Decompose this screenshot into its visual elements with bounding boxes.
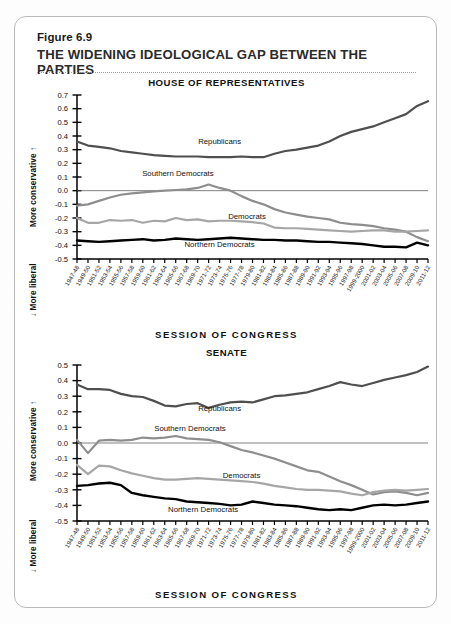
y-tick-label: -0.4 (55, 241, 68, 250)
y-tick-label: 0.7 (57, 91, 68, 100)
y-tick-label: 0.4 (57, 132, 68, 141)
y-tick-label: 0.2 (57, 159, 68, 168)
y-tick-label: -0.1 (55, 200, 68, 209)
series-label-northern-democrats: Northern Democrats (168, 505, 238, 514)
chart-title-house: HOUSE OF REPRESENTATIVES (15, 77, 438, 88)
y-tick-label: -0.2 (55, 470, 68, 479)
series-label-republicans: Republicans (198, 137, 241, 146)
line-chart-senate: 0.50.40.30.20.10.0-0.1-0.2-0.3-0.4-0.519… (15, 359, 438, 581)
y-tick-label: 0.0 (57, 186, 68, 195)
y-tick-label: -0.4 (55, 501, 68, 510)
x-axis-title-house: SESSION OF CONGRESS (15, 329, 438, 340)
y-tick-label: 0.6 (57, 104, 68, 113)
y-tick-label: -0.3 (55, 486, 68, 495)
y-tick-label: 0.5 (57, 361, 68, 370)
series-label-southern-democrats: Southern Democrats (142, 169, 214, 178)
x-axis-title-senate: SESSION OF CONGRESS (15, 589, 438, 600)
series-line-northern-democrats (77, 483, 428, 510)
y-tick-label: 0.3 (57, 392, 68, 401)
y-tick-label: -0.3 (55, 227, 68, 236)
series-label-northern-democrats: Northern Democrats (184, 240, 254, 249)
figure-card: Figure 6.9 THE WIDENING IDEOLOGICAL GAP … (14, 16, 437, 608)
series-label-democrats: Democrats (223, 471, 261, 480)
series-line-republicans (77, 367, 428, 408)
chart-panel-house: HOUSE OF REPRESENTATIVES More conservati… (15, 77, 438, 345)
y-tick-label: 0.4 (57, 376, 68, 385)
line-chart-house: 0.70.60.50.40.30.20.10.0-0.1-0.2-0.3-0.4… (15, 89, 438, 319)
y-tick-label: -0.1 (55, 454, 68, 463)
y-tick-label: -0.5 (55, 255, 68, 264)
series-label-republicans: Republicans (198, 404, 241, 413)
figure-number-label: Figure 6.9 (37, 31, 92, 43)
chart-title-senate: SENATE (15, 347, 438, 358)
y-tick-label: 0.3 (57, 145, 68, 154)
y-tick-label: 0.5 (57, 118, 68, 127)
y-tick-label: 0.1 (57, 173, 68, 182)
y-tick-label: 0.2 (57, 408, 68, 417)
chart-panel-senate: SENATE More conservative ↑ ↓ More libera… (15, 347, 438, 609)
series-label-democrats: Democrats (228, 212, 266, 221)
y-tick-label: -0.2 (55, 214, 68, 223)
series-line-southern-democrats (77, 436, 428, 495)
series-line-republicans (77, 101, 428, 157)
title-divider (37, 72, 416, 73)
y-tick-label: 0.0 (57, 439, 68, 448)
y-tick-label: -0.5 (55, 517, 68, 526)
y-tick-label: 0.1 (57, 423, 68, 432)
figure-page: Figure 6.9 THE WIDENING IDEOLOGICAL GAP … (0, 0, 451, 624)
series-label-southern-democrats: Southern Democrats (154, 424, 226, 433)
